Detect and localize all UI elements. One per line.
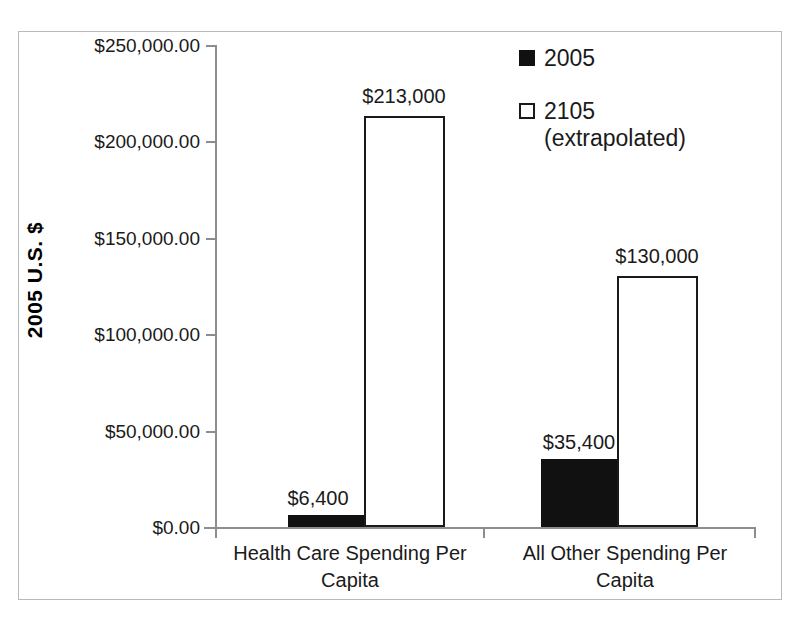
data-label-2005-all-other: $35,400: [515, 431, 643, 453]
x-category-label-health-care-line1: Health Care Spending Per: [210, 540, 490, 567]
bar-2105-health-care[interactable]: [364, 116, 445, 527]
y-axis-line: [215, 45, 217, 528]
bar-2005-all-other[interactable]: [541, 459, 617, 527]
legend-swatch-outline-icon: [519, 103, 535, 119]
x-category-label-all-other-line1: All Other Spending Per: [490, 540, 760, 567]
x-category-label-all-other-line2: Capita: [490, 567, 760, 594]
y-axis-tick-labels: $250,000.00 $200,000.00 $150,000.00 $100…: [48, 0, 200, 633]
data-label-2005-health-care: $6,400: [270, 487, 366, 509]
legend-swatch-filled-icon: [519, 50, 535, 66]
x-category-label-health-care: Health Care Spending Per Capita: [210, 540, 490, 594]
chart-container: 2005 U.S. $ $250,000.00 $200,000.00 $150…: [0, 0, 805, 633]
y-tick-label-100000: $100,000.00: [50, 325, 200, 344]
data-label-2105-health-care: $213,000: [336, 85, 472, 107]
y-tick-label-150000: $150,000.00: [50, 229, 200, 248]
y-tick-label-200000: $200,000.00: [50, 132, 200, 151]
legend-item-2105[interactable]: 2105 (extrapolated): [519, 98, 769, 152]
x-category-label-all-other: All Other Spending Per Capita: [490, 540, 760, 594]
y-tick-label-50000: $50,000.00: [50, 422, 200, 441]
chart-legend: 2005 2105 (extrapolated): [519, 45, 769, 178]
legend-label-2005: 2005: [544, 45, 595, 71]
y-axis-title: 2005 U.S. $: [23, 195, 47, 365]
x-axis-line: [204, 527, 755, 529]
y-tick-label-0: $0.00: [50, 518, 200, 537]
data-label-2105-all-other: $130,000: [589, 245, 725, 267]
x-axis-tick-start: [215, 527, 217, 538]
legend-label-2105: 2105: [544, 98, 595, 124]
x-axis-tick-end: [754, 527, 756, 538]
y-tick-label-250000: $250,000.00: [50, 36, 200, 55]
x-category-label-health-care-line2: Capita: [210, 567, 490, 594]
legend-label-2105-sub: (extrapolated): [544, 125, 686, 152]
x-axis-tick-middle: [483, 527, 485, 538]
bar-2105-all-other[interactable]: [617, 276, 698, 527]
legend-item-2005[interactable]: 2005: [519, 45, 769, 72]
bar-2005-health-care[interactable]: [288, 515, 364, 527]
